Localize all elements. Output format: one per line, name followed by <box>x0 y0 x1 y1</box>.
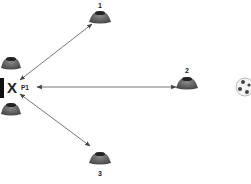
cone-3 <box>89 152 111 165</box>
cone-1 <box>89 11 111 24</box>
cone-2 <box>176 77 198 90</box>
player-label: P1 <box>21 84 29 91</box>
drill-diagram: 1 2 3 X P1 <box>0 0 251 184</box>
cone-left-bottom <box>1 103 21 116</box>
arrow-p1-cone3 <box>20 94 90 146</box>
cone-3-label: 3 <box>98 170 102 177</box>
soccer-ball-icon <box>236 78 251 96</box>
cone-1-label: 1 <box>98 2 102 9</box>
cone-2-label: 2 <box>185 67 189 74</box>
cone-left-top <box>1 57 21 70</box>
player-marker: X <box>7 79 17 96</box>
arrow-p1-cone1 <box>20 24 92 80</box>
goal-bar <box>0 78 4 98</box>
